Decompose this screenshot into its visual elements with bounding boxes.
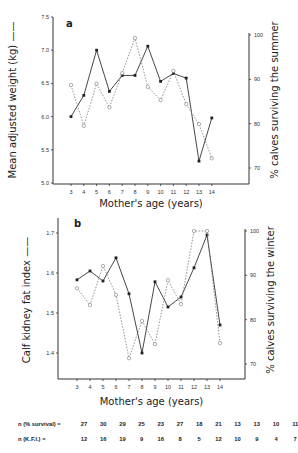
sample-size-value: 10 [234, 436, 240, 442]
y2-tick-label: 100 [254, 32, 263, 38]
sample-size-value: 7 [294, 436, 297, 442]
data-point-open [159, 98, 162, 101]
data-point-filled [198, 160, 201, 163]
data-point-open [185, 102, 188, 105]
y-tick-label: 7.5 [41, 14, 49, 20]
data-point-open [218, 341, 221, 344]
data-point-filled [185, 77, 188, 80]
sample-size-value: 23 [158, 421, 165, 427]
y-tick-label: 1.6 [46, 270, 54, 276]
y2-tick-label: 100 [250, 228, 259, 234]
y-tick-label: 5.0 [41, 180, 49, 186]
y-tick-label: 1.5 [46, 310, 54, 316]
data-point-open [172, 69, 175, 72]
data-point-open [69, 83, 72, 86]
y-axis-label: Calf kidney fat index —— [21, 237, 32, 363]
data-point-filled [154, 280, 157, 283]
data-point-filled [134, 74, 137, 77]
data-point-open [121, 71, 124, 74]
data-point-open [166, 279, 169, 282]
data-point-open [140, 319, 143, 322]
data-point-open [88, 303, 91, 306]
sample-size-value: 13 [254, 421, 261, 427]
sample-size-value: 8 [178, 436, 182, 442]
sample-size-value: 27 [177, 421, 183, 427]
data-point-open [114, 293, 117, 296]
sample-size-value: 16 [100, 436, 107, 442]
y2-tick-label: 90 [250, 272, 256, 278]
x-tick-label: 11 [171, 189, 177, 195]
sample-size-value: 5 [198, 436, 202, 442]
data-point-filled [70, 115, 73, 118]
data-point-filled [108, 90, 111, 93]
data-point-filled [102, 280, 105, 283]
x-tick-label: 14 [209, 189, 215, 195]
sample-size-value: 9 [140, 436, 144, 442]
x-tick-label: 9 [153, 384, 156, 390]
sample-size-row-kfi: n (K.F.I.) =121619916851210947 [18, 436, 297, 442]
data-point-open [197, 122, 200, 125]
row-label: n (% survival) = [18, 421, 61, 427]
sample-size-value: 13 [234, 421, 241, 427]
y-tick-label: 6.5 [41, 80, 49, 86]
sample-size-value: 25 [138, 421, 145, 427]
y2-axis-label: % calves surviving the winter [265, 225, 276, 373]
data-point-filled [76, 278, 79, 281]
data-point-open [108, 106, 111, 109]
x-tick-label: 12 [191, 384, 197, 390]
series-line-dashed [77, 231, 220, 358]
x-tick-label: 7 [121, 189, 124, 195]
figure: 5.05.56.06.57.07.57080901003456789101112… [0, 0, 298, 453]
data-point-open [153, 342, 156, 345]
y2-tick-label: 90 [254, 76, 260, 82]
data-point-filled [95, 49, 98, 52]
data-point-open [192, 229, 195, 232]
x-tick-label: 14 [217, 384, 223, 390]
x-tick-label: 9 [146, 189, 149, 195]
x-tick-label: 5 [95, 189, 98, 195]
panel-a: 5.05.56.06.57.07.57080901003456789101112… [7, 14, 280, 209]
data-point-filled [167, 306, 170, 309]
y-axis-label: Mean adjusted weight (kg) —— [7, 22, 18, 179]
y2-tick-label: 70 [250, 361, 256, 367]
x-tick-label: 6 [114, 384, 117, 390]
series-line-dashed [71, 38, 212, 158]
sample-size-value: 12 [81, 436, 87, 442]
data-point-filled [219, 324, 222, 327]
data-point-open [82, 124, 85, 127]
sample-size-value: 9 [255, 436, 259, 442]
series-line-solid [77, 235, 220, 353]
x-tick-label: 8 [133, 189, 136, 195]
x-tick-label: 3 [69, 189, 72, 195]
x-tick-label: 4 [88, 384, 91, 390]
data-point-open [210, 157, 213, 160]
sample-size-value: 4 [274, 436, 278, 442]
data-point-filled [159, 80, 162, 83]
data-point-open [95, 82, 98, 85]
panel-letter: a [66, 18, 73, 29]
y2-tick-label: 80 [250, 317, 256, 323]
x-axis-label: Mother's age (years) [100, 396, 204, 407]
x-tick-label: 7 [127, 384, 130, 390]
y-tick-label: 1.4 [46, 350, 54, 356]
data-point-filled [141, 352, 144, 355]
data-point-filled [210, 117, 213, 120]
sample-size-value: 18 [196, 421, 203, 427]
x-tick-label: 12 [183, 189, 189, 195]
data-point-filled [146, 45, 149, 48]
x-tick-label: 10 [165, 384, 171, 390]
sample-size-value: 19 [119, 436, 126, 442]
data-point-open [127, 357, 130, 360]
panel-b: 1.41.51.61.770809010034567891011121314bM… [21, 218, 276, 407]
data-point-filled [206, 234, 209, 237]
y2-tick-label: 80 [254, 121, 260, 127]
data-point-filled [82, 94, 85, 97]
sample-size-value: 16 [158, 436, 165, 442]
data-point-open [75, 286, 78, 289]
row-label: n (K.F.I.) = [18, 436, 46, 442]
y-tick-label: 6.0 [41, 114, 49, 120]
sample-size-value: 21 [215, 421, 222, 427]
sample-size-value: 10 [273, 421, 279, 427]
sample-size-row-survival: n (% survival) =273029252327182113131011 [18, 421, 298, 427]
data-point-filled [115, 256, 118, 259]
